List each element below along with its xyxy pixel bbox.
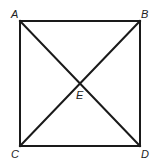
label-a: A xyxy=(10,8,18,20)
label-c: C xyxy=(11,148,19,160)
label-e: E xyxy=(76,89,84,101)
square-diagram: A B C D E xyxy=(0,0,160,167)
label-b: B xyxy=(141,8,148,20)
label-d: D xyxy=(141,148,149,160)
